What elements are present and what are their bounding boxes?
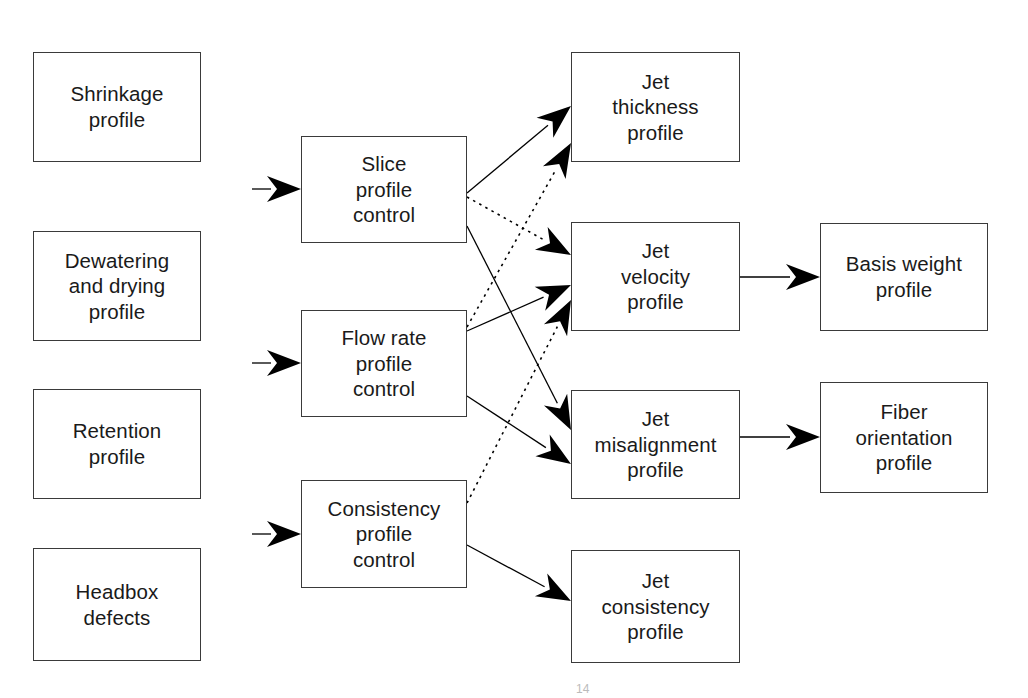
edge-e-flow-mis: [467, 396, 571, 464]
node-label: Basis weight profile: [846, 251, 962, 302]
node-fiber_orient: Fiber orientation profile: [820, 382, 988, 493]
node-basis_weight: Basis weight profile: [820, 223, 988, 331]
node-label: Dewatering and drying profile: [65, 248, 170, 325]
edge-e-flow-vel: [467, 285, 571, 331]
node-jet_vel: Jet velocity profile: [571, 222, 740, 331]
arrowhead-icon: [786, 424, 820, 450]
edge-line: [467, 169, 556, 327]
edge-line: [467, 327, 557, 503]
edge-e-cons-jcons: [467, 545, 571, 601]
node-cons_ctrl: Consistency profile control: [301, 480, 467, 588]
edge-line: [467, 197, 545, 240]
edge-e-vel-bw: [740, 264, 820, 290]
node-slice_ctrl: Slice profile control: [301, 136, 467, 243]
node-label: Slice profile control: [353, 151, 415, 228]
node-label: Jet misalignment profile: [595, 406, 717, 483]
node-label: Jet thickness profile: [612, 69, 698, 146]
node-jet_misalign: Jet misalignment profile: [571, 390, 740, 499]
arrowhead-icon: [537, 106, 571, 138]
arrowhead-icon: [535, 285, 571, 311]
node-headbox: Headbox defects: [33, 548, 201, 661]
arrowhead-icon: [267, 176, 301, 202]
node-retention: Retention profile: [33, 389, 201, 499]
node-label: Shrinkage profile: [70, 81, 163, 132]
arrowhead-icon: [543, 143, 571, 179]
edge-e-mis-fo: [740, 424, 820, 450]
edge-e-slice-vel: [467, 197, 571, 255]
page-number-mark: 14: [576, 682, 589, 696]
edge-e-in-cons: [252, 521, 301, 547]
diagram-canvas: 14 Shrinkage profileDewatering and dryin…: [0, 0, 1028, 698]
edge-e-slice-thick: [467, 106, 571, 193]
edge-e-in-slice: [252, 176, 301, 202]
node-label: Consistency profile control: [328, 496, 441, 573]
arrowhead-icon: [544, 300, 571, 336]
node-label: Fiber orientation profile: [856, 399, 953, 476]
node-label: Jet consistency profile: [601, 568, 709, 645]
node-label: Retention profile: [73, 418, 162, 469]
arrowhead-icon: [786, 264, 820, 290]
arrowhead-icon: [267, 521, 301, 547]
edge-e-slice-mis: [467, 226, 571, 430]
edge-e-flow-thick: [467, 143, 571, 327]
node-shrinkage: Shrinkage profile: [33, 52, 201, 162]
edge-e-cons-vel: [467, 300, 571, 503]
node-dewatering: Dewatering and drying profile: [33, 231, 201, 341]
node-jet_cons: Jet consistency profile: [571, 550, 740, 663]
edge-e-in-flow: [252, 350, 301, 376]
edge-line: [467, 545, 545, 587]
edge-line: [467, 125, 548, 193]
node-flow_ctrl: Flow rate profile control: [301, 310, 467, 417]
edge-line: [467, 396, 546, 448]
arrowhead-icon: [544, 394, 571, 430]
node-label: Flow rate profile control: [341, 325, 426, 402]
node-jet_thick: Jet thickness profile: [571, 52, 740, 162]
node-label: Headbox defects: [76, 579, 159, 630]
arrowhead-icon: [535, 573, 571, 601]
arrowhead-icon: [267, 350, 301, 376]
edge-line: [467, 297, 544, 331]
node-label: Jet velocity profile: [621, 238, 690, 315]
arrowhead-icon: [535, 227, 571, 255]
arrowhead-icon: [535, 435, 571, 464]
edge-line: [467, 226, 557, 403]
